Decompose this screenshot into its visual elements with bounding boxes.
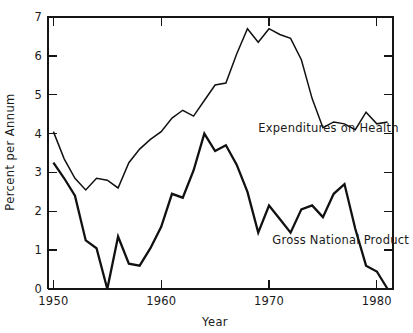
x-tick-label-1950: 1950 xyxy=(38,294,68,308)
x-tick-label-1960: 1960 xyxy=(146,294,176,308)
y-tick-label-1: 1 xyxy=(34,243,42,257)
y-tick-label-7: 7 xyxy=(34,10,42,24)
line-chart: 01234567 1950196019701980 Expenditures o… xyxy=(0,0,413,333)
y-tick-label-6: 6 xyxy=(34,49,42,63)
x-tick-label-1970: 1970 xyxy=(254,294,284,308)
series-group xyxy=(53,29,387,289)
y-tick-label-3: 3 xyxy=(34,165,42,179)
y-tick-label-2: 2 xyxy=(34,204,42,218)
x-axis-ticks: 1950196019701980 xyxy=(38,17,392,308)
series-label-gross-national-product: Gross National Product xyxy=(272,233,409,247)
series-label-expenditures-on-health: Expenditures on Health xyxy=(258,121,398,135)
series-line-expenditures-on-health xyxy=(53,29,387,190)
y-tick-label-4: 4 xyxy=(34,127,42,141)
chart-container: 01234567 1950196019701980 Expenditures o… xyxy=(0,0,413,333)
y-tick-label-5: 5 xyxy=(34,88,42,102)
y-axis-title: Percent per Annum xyxy=(3,93,17,210)
plot-frame xyxy=(48,17,393,289)
series-line-gross-national-product xyxy=(53,134,387,289)
x-tick-label-1980: 1980 xyxy=(362,294,392,308)
axis-frame xyxy=(48,17,393,289)
x-axis-title: Year xyxy=(201,315,228,329)
y-axis-ticks: 01234567 xyxy=(34,10,393,296)
